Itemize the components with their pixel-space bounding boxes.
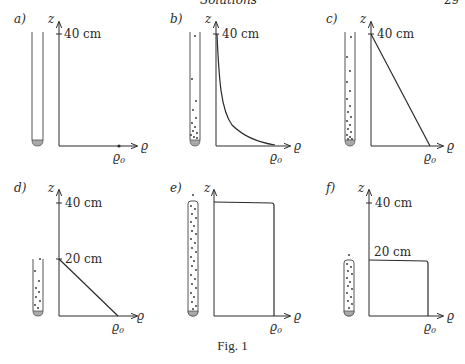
test-tube-a (32, 32, 43, 146)
svg-text:ϱ: ϱ (294, 139, 301, 153)
panel-label-b: b) (170, 12, 183, 26)
panel-a: a) z 40 cm ϱ ϱ0 (14, 12, 148, 165)
tick-40cm: 40 cm (375, 196, 413, 210)
axes-a: z 40 cm ϱ ϱ0 (47, 12, 148, 165)
test-tube-d (33, 258, 43, 316)
panel-d: d) z 40 cm 20 cm ϱ ϱ0 (14, 181, 144, 335)
axes-c: z 40 cm ϱ ϱ0 (359, 12, 454, 165)
svg-text:ϱ: ϱ (447, 139, 454, 153)
svg-text:z: z (47, 181, 55, 195)
rho-axis-label: ϱ (141, 139, 148, 153)
svg-text:ϱ: ϱ (294, 309, 301, 323)
svg-text:ϱ0: ϱ0 (424, 150, 436, 165)
density-curve (214, 202, 274, 316)
density-curve (369, 260, 428, 316)
density-line (371, 34, 430, 146)
svg-text:ϱ0: ϱ0 (112, 320, 124, 335)
svg-text:z: z (357, 181, 365, 195)
test-tube-c (345, 32, 355, 146)
axes-e: z ϱ ϱ0 (203, 181, 301, 335)
svg-text:z: z (204, 12, 212, 26)
density-line (59, 259, 118, 316)
svg-text:ϱ0: ϱ0 (424, 320, 436, 335)
figure-caption: Fig. 1 (0, 338, 465, 354)
test-tube-f (344, 254, 354, 316)
svg-text:ϱ: ϱ (447, 309, 454, 323)
axes-f: z 40 cm 20 cm ϱ ϱ0 (357, 181, 454, 335)
svg-text:ϱ0: ϱ0 (270, 320, 282, 335)
panel-label-c: c) (326, 12, 338, 26)
rho0-label: ϱ0 (113, 150, 125, 165)
panel-b: b) z 40 cm ϱ ϱ0 (170, 12, 301, 165)
panel-label-f: f) (325, 181, 335, 195)
figure-1: a) z 40 cm ϱ ϱ0 b) (0, 0, 465, 364)
axes-b: z 40 cm ϱ ϱ0 (204, 12, 301, 165)
z-axis-label: z (47, 12, 55, 26)
test-tube-e (188, 194, 198, 316)
panel-e: e) z ϱ ϱ0 (170, 181, 301, 335)
panel-label-d: d) (14, 181, 27, 195)
test-tube-b (190, 32, 200, 146)
sediment (32, 140, 43, 146)
panel-c: c) z 40 cm ϱ ϱ0 (326, 12, 454, 165)
density-curve (217, 34, 275, 145)
svg-text:ϱ: ϱ (137, 309, 144, 323)
panel-f: f) z 40 cm 20 cm ϱ ϱ0 (325, 181, 454, 335)
tick-20cm: 20 cm (374, 245, 412, 259)
axes-d: z 40 cm 20 cm ϱ ϱ0 (47, 181, 144, 335)
rho0-marker (117, 144, 120, 147)
svg-text:ϱ0: ϱ0 (270, 150, 282, 165)
tick-40cm: 40 cm (222, 27, 260, 41)
tick-40cm: 40 cm (377, 27, 415, 41)
panel-label-a: a) (14, 12, 26, 26)
particles (190, 35, 198, 139)
panel-label-e: e) (170, 181, 182, 195)
tick-20cm: 20 cm (65, 252, 103, 266)
svg-text:z: z (203, 181, 211, 195)
svg-text:z: z (359, 12, 367, 26)
tick-40cm: 40 cm (64, 27, 102, 41)
tick-40cm: 40 cm (65, 196, 103, 210)
